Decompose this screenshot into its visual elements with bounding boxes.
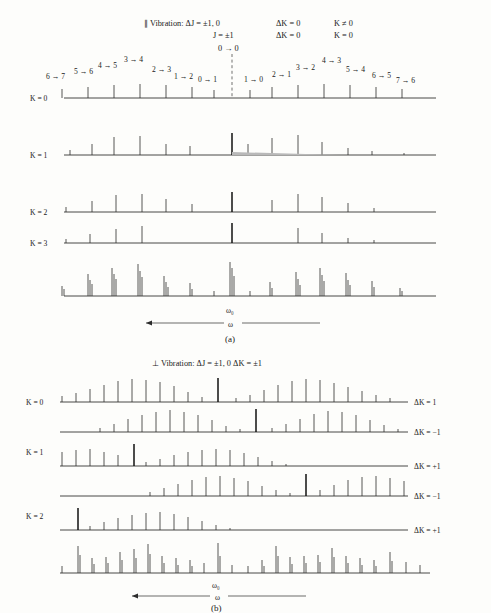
panel-a-axis-annotations: ω₀ ω (a) bbox=[146, 306, 320, 344]
panel-b-dk-label-4: ΔK = −1 bbox=[414, 492, 441, 501]
panel-a-trace-k2: K = 2 bbox=[30, 192, 436, 217]
r-label-1-0: 1 → 0 bbox=[244, 75, 263, 84]
panel-a-trace-sum bbox=[62, 262, 436, 296]
panel-b-omega0-label: ω₀ bbox=[212, 581, 220, 590]
panel-b-trace-k2-dkp1: K = 2 ΔK = +1 bbox=[26, 508, 441, 535]
r-label-6-5: 6 → 5 bbox=[372, 71, 391, 80]
panel-a-omega0-label: ω₀ bbox=[226, 306, 234, 315]
panel-a-trace-k1: K = 1 bbox=[30, 133, 436, 160]
panel-a-r-branch-labels: 1 → 0 2 → 1 3 → 2 4 → 3 5 → 4 6 → 5 7 → … bbox=[244, 56, 415, 85]
panel-b-trace-k1-dkm1: ΔK = −1 bbox=[60, 409, 441, 437]
panel-a-row-label-k0: K = 0 bbox=[30, 94, 48, 103]
figure-container: ∥ Vibration: ΔJ = ±1, 0 ΔK = 0 K ≠ 0 J =… bbox=[0, 0, 491, 613]
panel-a-row-label-k3: K = 3 bbox=[30, 239, 48, 248]
panel-a-omega-label: ω bbox=[228, 320, 233, 329]
panel-a-center-transition-label: 0 → 0 bbox=[218, 44, 239, 53]
panel-b-trace-k1-dkp1: K = 1 ΔK = +1 bbox=[26, 444, 441, 471]
r-label-4-3: 4 → 3 bbox=[322, 56, 341, 65]
panel-a-row-label-k1: K = 1 bbox=[30, 151, 48, 160]
omega-arrow-left-b bbox=[132, 594, 138, 599]
panel-a-trace-k3: K = 3 bbox=[30, 223, 436, 248]
panel-b-trace-k0-dk1: K = 0 ΔK = 1 bbox=[26, 378, 436, 407]
panel-b-trace-k2-dkm1: ΔK = −1 bbox=[60, 474, 441, 501]
p-label-5-6: 5 → 6 bbox=[74, 67, 93, 76]
panel-b-row-label-k0: K = 0 bbox=[26, 398, 44, 407]
p-label-4-5: 4 → 5 bbox=[98, 61, 117, 70]
p-label-6-7: 6 → 7 bbox=[46, 72, 65, 81]
r-label-3-2: 3 → 2 bbox=[296, 63, 315, 72]
panel-a-header: ∥ Vibration: ΔJ = ±1, 0 ΔK = 0 K ≠ 0 J =… bbox=[144, 19, 353, 53]
panel-b-header: ⊥ Vibration: ΔJ = ±1, 0 ΔK = ±1 bbox=[152, 359, 262, 368]
panel-a-label: (a) bbox=[225, 334, 235, 344]
panel-a-trace-k0: K = 0 bbox=[30, 84, 436, 103]
panel-b-label: (b) bbox=[211, 603, 222, 613]
panel-a-row-label-k2: K = 2 bbox=[30, 208, 48, 217]
panel-a-header-line1: ∥ Vibration: ΔJ = ±1, 0 bbox=[144, 19, 220, 28]
omega-arrow-left-a bbox=[146, 321, 152, 326]
panel-b-omega-label: ω bbox=[215, 593, 220, 602]
p-label-1-2: 1 → 2 bbox=[174, 72, 193, 81]
p-label-0-1: 0 → 1 bbox=[198, 75, 217, 84]
panel-b-trace-sum bbox=[60, 543, 430, 573]
panel-a-header-line2c: K = 0 bbox=[334, 31, 353, 40]
panel-b-row-label-k2: K = 2 bbox=[26, 512, 44, 521]
panel-b-dk-label-2: ΔK = −1 bbox=[414, 428, 441, 437]
r-label-7-6: 7 → 6 bbox=[396, 76, 415, 85]
panel-b-dk-label-3: ΔK = +1 bbox=[414, 462, 441, 471]
panel-b-axis-annotations: ω₀ ω (b) bbox=[132, 581, 306, 613]
panel-a-p-branch-labels: 6 → 7 5 → 6 4 → 5 3 → 4 2 → 3 1 → 2 0 → … bbox=[46, 55, 217, 84]
p-label-3-4: 3 → 4 bbox=[124, 55, 143, 64]
r-label-2-1: 2 → 1 bbox=[272, 70, 291, 79]
panel-a-header-line1c: K ≠ 0 bbox=[334, 19, 353, 28]
panel-b-dk-label-5: ΔK = +1 bbox=[414, 526, 441, 535]
p-label-2-3: 2 → 3 bbox=[152, 65, 171, 74]
spectra-svg: ∥ Vibration: ΔJ = ±1, 0 ΔK = 0 K ≠ 0 J =… bbox=[0, 0, 491, 613]
panel-a-header-line2: J = ±1 bbox=[213, 31, 234, 40]
panel-b-row-label-k1: K = 1 bbox=[26, 448, 44, 457]
panel-a-header-line1b: ΔK = 0 bbox=[276, 19, 300, 28]
panel-b-dk-label-1: ΔK = 1 bbox=[414, 398, 436, 407]
r-label-5-4: 5 → 4 bbox=[346, 65, 365, 74]
panel-a-header-line2b: ΔK = 0 bbox=[276, 31, 300, 40]
